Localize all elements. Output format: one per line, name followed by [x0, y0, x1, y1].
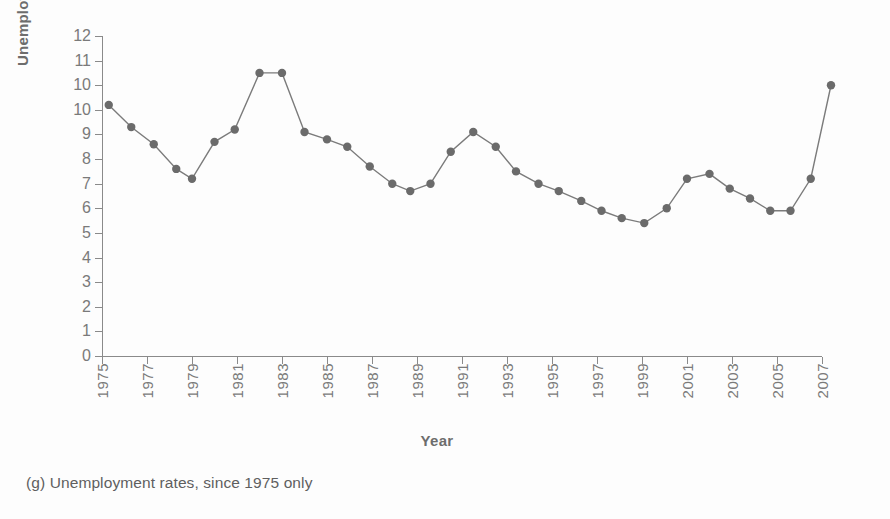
y-axis-tick-label: 11: [51, 52, 91, 70]
y-axis-tick: [95, 356, 102, 357]
data-point-marker: [188, 175, 196, 183]
data-point-marker: [786, 207, 794, 215]
x-axis-tick-label: 1997: [589, 363, 606, 398]
data-point-marker: [492, 143, 500, 151]
y-axis-tick: [95, 258, 102, 259]
data-point-marker: [663, 204, 671, 212]
data-point-marker: [127, 123, 135, 131]
x-axis-tick-label: 1983: [274, 363, 291, 398]
data-point-marker: [640, 219, 648, 227]
data-point-marker: [105, 101, 113, 109]
x-axis-tick-label: 2007: [814, 363, 831, 398]
plot-area: 121110109876543210 197519771979198119831…: [102, 36, 822, 357]
x-axis-tick-label: 1991: [454, 363, 471, 398]
x-axis-title: Year: [0, 432, 890, 449]
data-series-unemployment-rate: [102, 36, 822, 357]
data-point-marker: [278, 69, 286, 77]
y-axis-tick-label: 4: [51, 249, 91, 267]
data-point-marker: [426, 179, 434, 187]
data-point-marker: [827, 81, 835, 89]
data-point-marker: [323, 135, 331, 143]
data-point-marker: [172, 165, 180, 173]
data-point-marker: [683, 175, 691, 183]
x-axis-tick-label: 2001: [679, 363, 696, 398]
x-axis-tick-label: 1989: [409, 363, 426, 398]
y-axis-tick-label: 3: [51, 273, 91, 291]
y-axis-tick-label: 0: [51, 347, 91, 365]
y-axis-title-text: Unemployment rate (%): [14, 0, 31, 66]
y-axis-tick-label: 6: [51, 199, 91, 217]
y-axis-tick: [95, 134, 102, 135]
y-axis-tick: [95, 159, 102, 160]
y-axis-tick-label: 10: [51, 101, 91, 119]
x-axis-title-text: Year: [421, 432, 454, 449]
x-axis-tick-label: 1993: [499, 363, 516, 398]
y-axis-tick: [95, 331, 102, 332]
y-axis-tick-label: 7: [51, 175, 91, 193]
data-point-marker: [388, 179, 396, 187]
y-axis-tick-label: 5: [51, 224, 91, 242]
data-point-marker: [512, 167, 520, 175]
x-axis-tick-label: 1975: [94, 363, 111, 398]
data-point-marker: [150, 140, 158, 148]
data-point-marker: [406, 187, 414, 195]
data-point-marker: [366, 162, 374, 170]
y-axis-tick: [95, 110, 102, 111]
x-axis-tick-label: 1987: [364, 363, 381, 398]
y-axis-tick: [95, 307, 102, 308]
data-point-marker: [597, 207, 605, 215]
y-axis-tick: [95, 85, 102, 86]
data-point-marker: [534, 179, 542, 187]
chart-figure: Unemployment rate (%) 121110109876543210…: [0, 0, 890, 519]
series-line: [109, 73, 831, 223]
data-point-marker: [807, 175, 815, 183]
x-axis-tick-label: 1977: [139, 363, 156, 398]
y-axis-tick-label: 9: [51, 125, 91, 143]
data-point-marker: [231, 125, 239, 133]
data-point-marker: [746, 194, 754, 202]
data-point-marker: [555, 187, 563, 195]
y-axis-tick: [95, 282, 102, 283]
y-axis-tick-label: 2: [51, 298, 91, 316]
figure-caption: (g) Unemployment rates, since 1975 only: [26, 474, 312, 492]
x-axis-tick-label: 1999: [634, 363, 651, 398]
x-axis-tick-label: 1981: [229, 363, 246, 398]
y-axis-tick-label: 8: [51, 150, 91, 168]
data-point-marker: [210, 138, 218, 146]
y-axis-tick-label: 1: [51, 322, 91, 340]
x-axis-tick-label: 1995: [544, 363, 561, 398]
data-point-marker: [255, 69, 263, 77]
data-point-marker: [618, 214, 626, 222]
y-axis-tick-label: 10: [51, 76, 91, 94]
x-axis-tick-label: 2003: [724, 363, 741, 398]
data-point-marker: [343, 143, 351, 151]
data-point-marker: [705, 170, 713, 178]
x-axis-tick-label: 2005: [769, 363, 786, 398]
data-point-marker: [726, 184, 734, 192]
data-point-marker: [577, 197, 585, 205]
x-axis-tick-label: 1979: [184, 363, 201, 398]
y-axis-tick: [95, 61, 102, 62]
y-axis-title: Unemployment rate (%): [14, 0, 40, 66]
y-axis-tick: [95, 233, 102, 234]
data-point-marker: [300, 128, 308, 136]
x-axis-tick-label: 1985: [319, 363, 336, 398]
y-axis-tick: [95, 36, 102, 37]
y-axis-tick: [95, 208, 102, 209]
y-axis-tick-label: 12: [51, 27, 91, 45]
data-point-marker: [469, 128, 477, 136]
data-point-marker: [447, 147, 455, 155]
y-axis-tick: [95, 184, 102, 185]
data-point-marker: [766, 207, 774, 215]
